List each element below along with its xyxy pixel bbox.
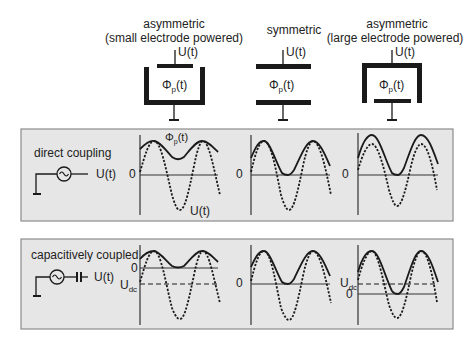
ground-symbol	[33, 193, 41, 195]
config-subtitle: (small electrode powered)	[105, 31, 243, 45]
ground-symbol	[169, 119, 179, 121]
panel-direct-coupling: direct coupling U(t) 0 Φp(t) U(t) 0	[21, 129, 453, 221]
source-label: U(t)	[94, 270, 114, 284]
source-label: U(t)	[96, 167, 116, 181]
panel-title: capacitively coupled	[31, 248, 138, 262]
config-asymmetric-small-powered: asymmetric (small electrode powered) U(t…	[105, 17, 243, 121]
powered-electrode-top	[362, 63, 422, 68]
voltage-label: U(t)	[178, 45, 198, 59]
panel-capacitively-coupled: capacitively coupled U(t) 0 Udc 0	[21, 239, 453, 329]
powered-electrode-right	[417, 63, 422, 103]
config-asymmetric-large-powered: asymmetric (large electrode powered) U(t…	[327, 17, 464, 121]
plasma-potential-label: Φp(t)	[269, 78, 294, 94]
zero-label: 0	[129, 167, 136, 181]
zero-label: 0	[342, 167, 349, 181]
grounded-electrode	[374, 99, 411, 103]
grounded-electrode-right	[200, 67, 205, 102]
panel-title: direct coupling	[34, 146, 111, 160]
zero-label: 0	[131, 261, 138, 275]
ground-symbol	[278, 119, 288, 121]
u-label: U(t)	[190, 204, 210, 218]
grounded-electrode-bottom	[144, 100, 205, 105]
capacitor-plate-left	[76, 272, 78, 282]
powered-electrode	[256, 64, 311, 69]
config-symmetric: symmetric U(t) Φp(t)	[256, 23, 321, 121]
config-title: asymmetric	[143, 17, 204, 31]
plasma-potential-label: Φp(t)	[162, 78, 187, 94]
voltage-label: U(t)	[395, 45, 415, 59]
config-subtitle: (large electrode powered)	[327, 31, 464, 45]
config-title: symmetric	[267, 23, 322, 37]
grounded-electrode	[256, 100, 311, 105]
zero-label: 0	[236, 276, 243, 290]
zero-label: 0	[236, 167, 243, 181]
plasma-potential-label: Φp(t)	[379, 78, 404, 94]
powered-electrode-left	[362, 63, 367, 103]
zero-label: 0	[346, 287, 353, 301]
config-title: asymmetric	[366, 17, 427, 31]
ground-symbol	[33, 295, 41, 297]
powered-electrode	[157, 64, 193, 68]
grounded-electrode-left	[144, 67, 149, 102]
plasma-coupling-diagram: .elec { fill: #1a1a1a; } .wire { stroke:…	[0, 0, 475, 340]
voltage-label: U(t)	[286, 45, 306, 59]
capacitor-plate-right	[80, 272, 82, 282]
ground-symbol	[387, 119, 397, 121]
